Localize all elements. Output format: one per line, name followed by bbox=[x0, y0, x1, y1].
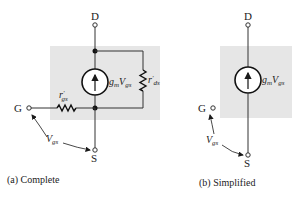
drain-label: D bbox=[91, 10, 99, 22]
vgs-arrow-to-gate-icon bbox=[210, 115, 214, 134]
source-label: S bbox=[244, 157, 250, 169]
drain-label: D bbox=[244, 10, 252, 22]
gate-label: G bbox=[14, 102, 22, 114]
caption-simplified: (b) Simplified bbox=[199, 177, 255, 189]
gate-terminal bbox=[211, 106, 215, 110]
panel-simplified: D gmVgs S G Vgs (b) Simplified bbox=[198, 10, 292, 189]
drain-terminal bbox=[93, 23, 97, 27]
vgs-arrow-to-source-icon bbox=[222, 145, 243, 155]
vgs-label: Vgs bbox=[206, 134, 219, 147]
caption-complete: (a) Complete bbox=[7, 174, 60, 186]
gate-label: G bbox=[198, 102, 206, 114]
vgs-label: Vgs bbox=[46, 133, 59, 146]
source-label: S bbox=[91, 152, 97, 164]
drain-terminal bbox=[246, 23, 250, 27]
vgs-arrow-to-gate-icon bbox=[32, 115, 47, 137]
fet-equivalent-circuits: D r′ds gmVgs G r′gs S Vgs (a) Complete bbox=[0, 0, 303, 199]
vgs-arrow-to-source-icon bbox=[63, 143, 90, 150]
gate-terminal bbox=[27, 106, 31, 110]
panel-complete: D r′ds gmVgs G r′gs S Vgs (a) Complete bbox=[7, 10, 160, 186]
